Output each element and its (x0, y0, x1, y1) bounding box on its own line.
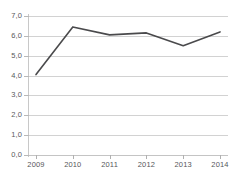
y-tick-mark (24, 16, 29, 17)
y-tick-mark (24, 36, 29, 37)
series-layer (0, 0, 232, 173)
x-tick-mark (183, 155, 184, 159)
x-tick-mark (220, 155, 221, 159)
x-tick-mark (36, 155, 37, 159)
line-chart: 0,01,02,03,04,05,06,07,0 200920102011201… (0, 0, 232, 173)
y-tick-mark (24, 155, 29, 156)
series-line (36, 27, 220, 75)
x-tick-mark (146, 155, 147, 159)
x-tick-mark (110, 155, 111, 159)
y-tick-mark (24, 56, 29, 57)
y-tick-mark (24, 76, 29, 77)
y-tick-mark (24, 115, 29, 116)
y-tick-mark (24, 95, 29, 96)
y-tick-mark (24, 135, 29, 136)
x-tick-mark (73, 155, 74, 159)
